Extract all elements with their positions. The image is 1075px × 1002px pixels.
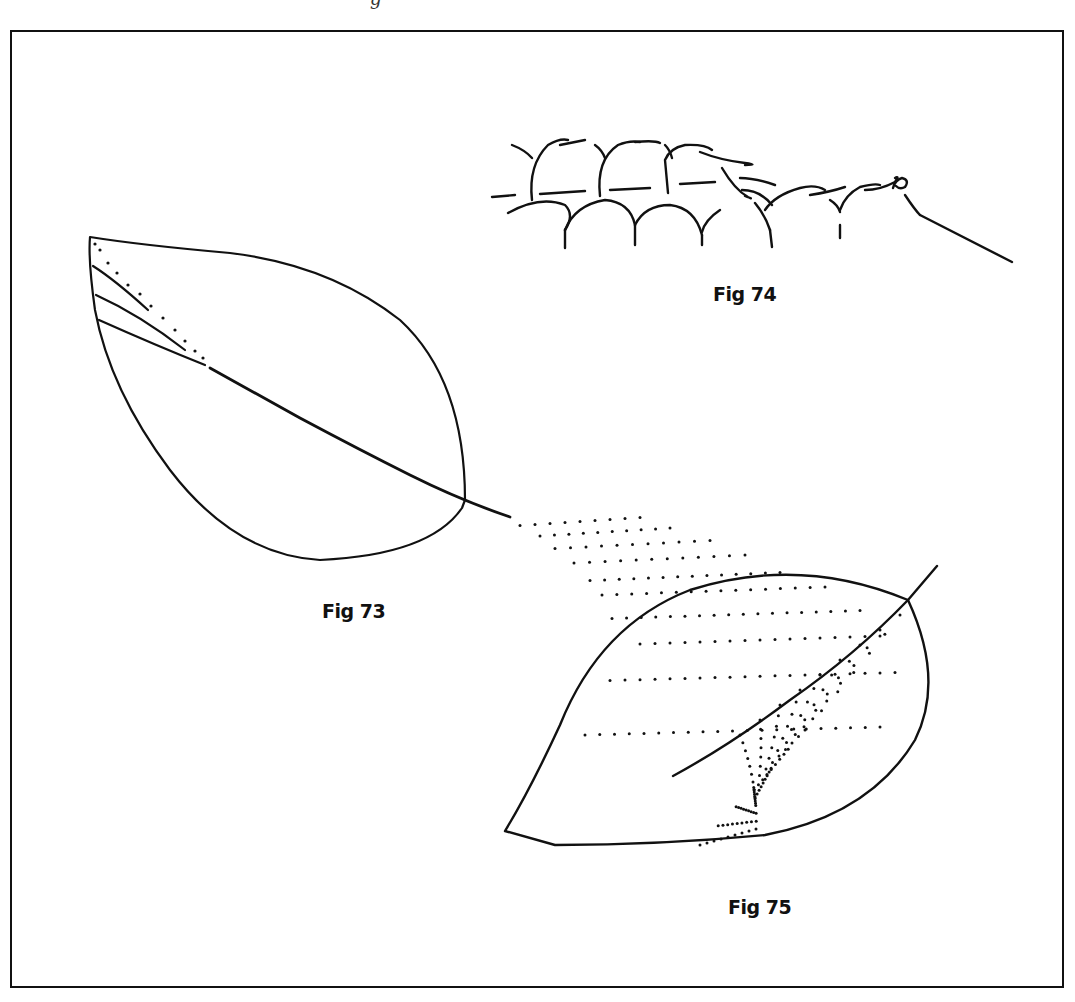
fig75-dotted-veins	[519, 516, 902, 847]
fig73-caption: Fig 73	[322, 600, 385, 622]
fig75-leaf-illustration	[505, 566, 937, 845]
fig73-leaf-illustration	[90, 237, 510, 560]
fig74-stitch-illustration	[492, 140, 1012, 262]
fig75-caption: Fig 75	[728, 896, 791, 918]
illustrations	[0, 0, 1075, 1002]
fig74-caption: Fig 74	[713, 283, 776, 305]
